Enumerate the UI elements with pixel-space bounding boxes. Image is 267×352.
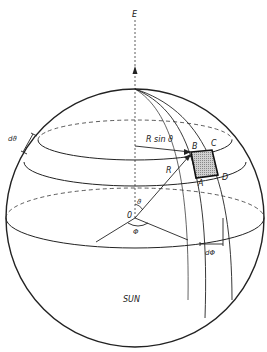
- phi-line-right: [135, 218, 188, 240]
- origin-label: 0: [127, 211, 132, 220]
- phi-label: Φ: [133, 228, 139, 236]
- radius-arrow-icon: [184, 154, 191, 161]
- point-b-label: B: [192, 142, 198, 151]
- radius-label: R: [166, 166, 172, 175]
- axis-arrow-icon: [133, 66, 138, 74]
- surface-element: [191, 150, 218, 178]
- d-phi-label: dΦ: [205, 249, 215, 257]
- phi-line-left: [96, 218, 135, 242]
- meridian-1: [135, 89, 206, 318]
- point-c-label: C: [211, 139, 217, 148]
- sun-label: SUN: [123, 295, 140, 304]
- sun-sphere-diagram: E R sin ϑ R 0 ϑ Φ dϑ dΦ A B C D SUN: [0, 0, 267, 352]
- point-d-label: D: [222, 173, 228, 182]
- point-a-label: A: [197, 179, 203, 188]
- d-theta-bracket: [23, 134, 33, 152]
- phi-arc: [128, 223, 148, 226]
- r-sin-theta-label: R sin ϑ: [146, 135, 173, 144]
- axis-label: E: [132, 10, 138, 19]
- r-sin-theta-line: [135, 146, 190, 152]
- d-theta-label: dϑ: [8, 135, 17, 143]
- theta-label: ϑ: [137, 198, 142, 206]
